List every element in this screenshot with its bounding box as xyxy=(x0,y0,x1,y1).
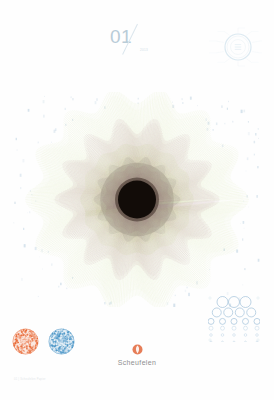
issue-subtitle: 2013 xyxy=(140,48,148,52)
issue-marker: 01 2013 xyxy=(110,26,170,62)
poster-header: 01 2013 xyxy=(0,0,274,86)
scheufelen-logo-icon xyxy=(132,344,143,355)
process-wheel-diagram-icon xyxy=(196,26,262,68)
guilloche-rosette-graphic xyxy=(8,92,266,307)
rosette-container xyxy=(8,92,266,307)
brand-lockup: Scheufelen xyxy=(0,344,274,366)
brand-name: Scheufelen xyxy=(0,359,274,366)
issue-number: 01 xyxy=(110,26,132,48)
halftone-dot-grid xyxy=(208,296,260,342)
poster-page: 01 2013 Scheufelen xyxy=(0,0,274,400)
footer-note: 01 | Scheufelen Papier xyxy=(14,378,46,381)
